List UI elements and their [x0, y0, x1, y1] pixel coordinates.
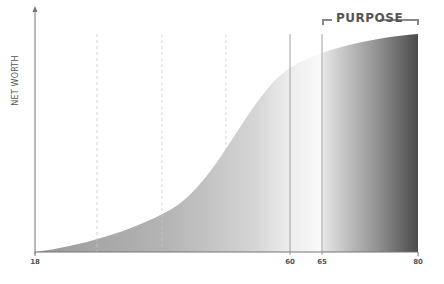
x-tick-label-65: 65	[317, 258, 327, 266]
net-worth-area	[35, 34, 418, 252]
purpose-annotation: PURPOSE	[336, 11, 403, 25]
x-tick-label-80: 80	[413, 258, 423, 266]
x-tick-label-18: 18	[30, 258, 40, 266]
y-axis-label: NET WORTH	[4, 40, 24, 130]
y-axis-label-text: NET WORTH	[11, 36, 20, 126]
x-tick-label-60: 60	[285, 258, 295, 266]
net-worth-chart	[0, 0, 444, 284]
y-axis-arrow-icon	[33, 6, 38, 12]
